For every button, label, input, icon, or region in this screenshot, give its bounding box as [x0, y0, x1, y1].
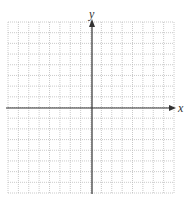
y-axis-label: y	[88, 7, 95, 21]
x-axis-arrow-icon	[169, 105, 176, 111]
coordinate-plane: x y	[0, 0, 185, 199]
x-axis-label: x	[177, 101, 184, 115]
